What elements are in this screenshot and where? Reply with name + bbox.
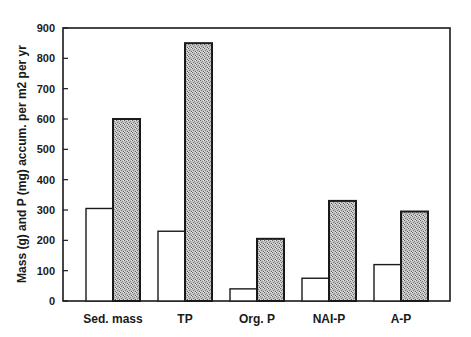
y-tick-label: 200 (37, 234, 55, 246)
y-axis-label: Mass (g) and P (mg) accum. per m2 per yr (15, 45, 29, 283)
x-axis-labels: Sed. massTPOrg. PNAI-PA-P (83, 312, 411, 326)
x-category-label: A-P (391, 312, 412, 326)
y-tick-label: 400 (37, 174, 55, 186)
white-bar-tp (158, 231, 185, 301)
stippled-bar-nai-p (329, 201, 356, 301)
y-tick-label: 500 (37, 143, 55, 155)
y-tick-label: 800 (37, 52, 55, 64)
x-category-label: NAI-P (313, 312, 346, 326)
stippled-bar-a-p (401, 212, 428, 301)
y-tick-label: 600 (37, 113, 55, 125)
white-bar-nai-p (302, 278, 329, 301)
white-bar-a-p (374, 265, 401, 301)
x-category-label: Org. P (239, 312, 275, 326)
y-tick-label: 0 (49, 295, 55, 307)
y-tick-label: 900 (37, 22, 55, 34)
x-category-label: Sed. mass (83, 312, 143, 326)
white-bar-org-p (230, 289, 257, 301)
x-category-label: TP (177, 312, 192, 326)
bar-chart: 0100200300400500600700800900 Sed. massTP… (0, 0, 471, 337)
y-tick-label: 100 (37, 265, 55, 277)
stippled-bar-org-p (257, 239, 284, 301)
bars (86, 43, 428, 301)
stippled-bar-tp (185, 43, 212, 301)
stippled-bar-sed-mass (113, 119, 140, 301)
y-tick-label: 700 (37, 83, 55, 95)
white-bar-sed-mass (86, 208, 113, 301)
y-tick-label: 300 (37, 204, 55, 216)
